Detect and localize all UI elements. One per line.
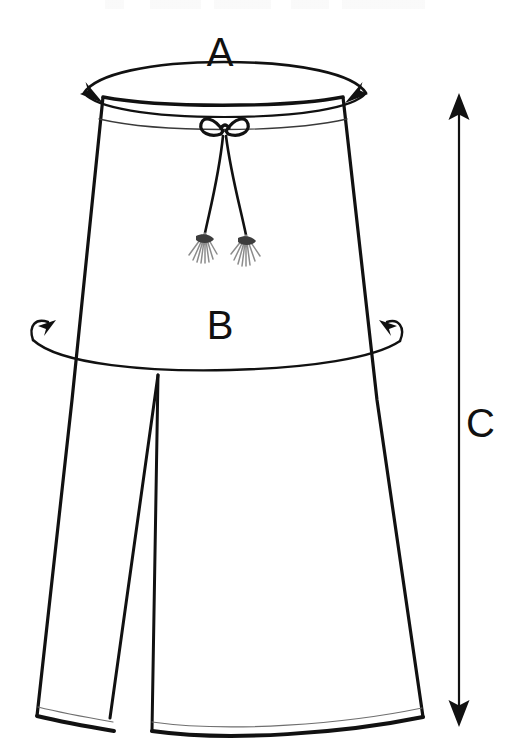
- drawstring: [189, 119, 260, 266]
- waistband-top-edge: [103, 97, 343, 105]
- measurement-label-b: B: [0, 305, 440, 345]
- drawstring-cord-right: [226, 136, 246, 235]
- drawstring-cord-left: [205, 136, 223, 233]
- measurement-label-a: A: [0, 32, 440, 72]
- tassel-right-band: [238, 236, 256, 245]
- crotch-inseam-left: [110, 375, 158, 718]
- measurement-label-c: C: [466, 403, 495, 443]
- pants-body: [37, 97, 423, 736]
- right-outer-seam: [343, 97, 423, 717]
- tassel-right: [231, 235, 260, 266]
- garment-illustration: [0, 0, 531, 755]
- left-outer-seam: [37, 97, 103, 716]
- left-hem-edge: [37, 716, 114, 731]
- drawstring-knot: [221, 125, 229, 128]
- tassel-left: [189, 233, 217, 263]
- pants-measurement-diagram: A B C: [0, 0, 531, 755]
- tassel-left-band: [196, 234, 214, 243]
- crotch-inseam-right: [152, 375, 158, 731]
